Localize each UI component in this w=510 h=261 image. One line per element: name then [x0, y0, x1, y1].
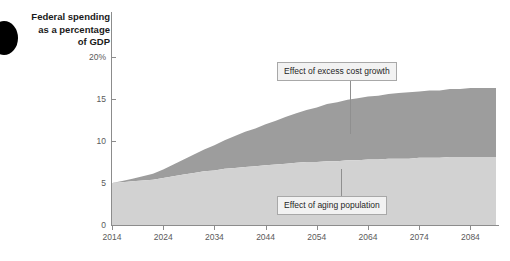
x-tick-label-2084: 2084	[450, 232, 490, 242]
x-tick-label-2054: 2054	[297, 232, 337, 242]
y-tick-label-0: 0	[62, 221, 106, 230]
x-tick-label-2014: 2014	[92, 232, 132, 242]
x-tick-label-2024: 2024	[143, 232, 183, 242]
x-tick-label-2044: 2044	[246, 232, 286, 242]
chart-screenshot: Federal spending as a percentage of GDP …	[0, 0, 510, 261]
leader-line-aging-population	[341, 169, 342, 196]
x-tick-2014	[112, 226, 113, 230]
y-tick-label-20%: 20%	[62, 53, 106, 62]
x-tick-2064	[368, 226, 369, 230]
y-tick-label-5: 5	[62, 179, 106, 188]
annotation-excess-cost-growth: Effect of excess cost growth	[277, 62, 397, 81]
x-tick-2024	[163, 226, 164, 230]
x-axis-line	[111, 225, 499, 226]
x-tick-label-2034: 2034	[194, 232, 234, 242]
x-tick-2034	[214, 226, 215, 230]
y-tick-label-10: 10	[62, 137, 106, 146]
annotation-aging-population: Effect of aging population	[277, 196, 387, 215]
x-tick-2084	[470, 226, 471, 230]
x-tick-label-2064: 2064	[348, 232, 388, 242]
x-tick-label-2074: 2074	[399, 232, 439, 242]
y-tick-label-15: 15	[62, 95, 106, 104]
x-tick-2044	[266, 226, 267, 230]
x-tick-2054	[317, 226, 318, 230]
y-axis-title: Federal spending as a percentage of GDP	[10, 11, 110, 49]
leader-line-excess-cost-growth	[350, 80, 351, 134]
x-tick-2074	[419, 226, 420, 230]
